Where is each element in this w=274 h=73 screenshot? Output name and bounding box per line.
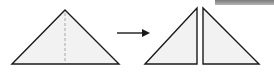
result-triangle-left xyxy=(145,8,197,64)
arrow-right-icon xyxy=(142,29,150,37)
diagram-canvas: A triangle with a dashed center fold lin… xyxy=(0,0,274,73)
result-triangle-right xyxy=(203,8,259,64)
header-bar xyxy=(215,0,274,5)
fold-diagram xyxy=(0,0,274,73)
